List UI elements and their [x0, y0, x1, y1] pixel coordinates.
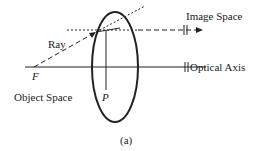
image-space-label: Image Space	[186, 10, 243, 22]
object-space-label: Object Space	[14, 91, 72, 103]
optical-axis-label: Optical Axis	[190, 61, 245, 73]
image-arrow-icon	[196, 27, 203, 33]
point-p-label: P	[101, 91, 109, 103]
caption: (a)	[120, 134, 133, 147]
ray-label: Ray	[48, 38, 66, 50]
focal-point-label: F	[31, 70, 39, 82]
optics-diagram: Ray Image Space Optical Axis Object Spac…	[0, 0, 257, 151]
